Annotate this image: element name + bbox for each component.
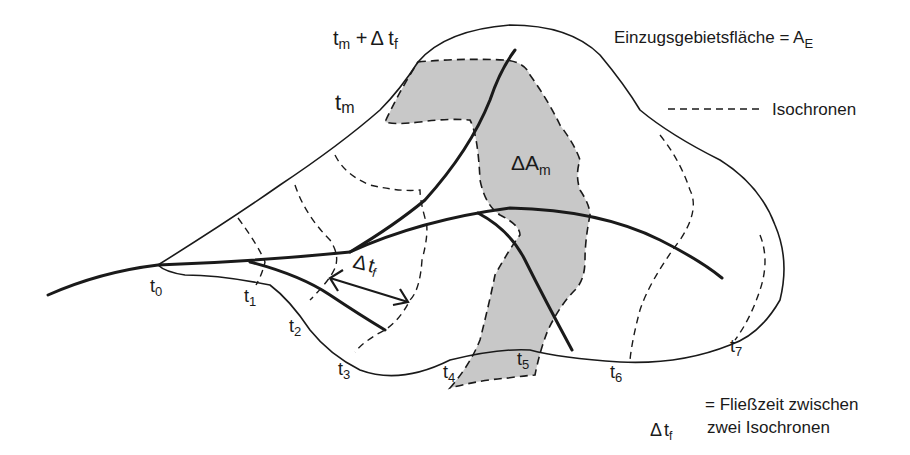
tributary-lower bbox=[250, 262, 385, 330]
isochrone-t7 bbox=[735, 235, 765, 340]
label-t1: t1 bbox=[244, 286, 256, 309]
delta-tf-arrow bbox=[330, 278, 408, 302]
label-t0: t0 bbox=[150, 276, 162, 299]
isochrone-t6 bbox=[630, 135, 693, 360]
definition-line-1: = Fließzeit zwischen bbox=[705, 395, 859, 414]
legend-isochrones: Isochronen bbox=[772, 100, 856, 119]
label-t3: t3 bbox=[338, 359, 350, 382]
isochrone-t2 bbox=[295, 185, 337, 300]
label-tm-plus-delta-tf: tm +Δ tf bbox=[333, 27, 398, 52]
label-t6: t6 bbox=[610, 362, 622, 385]
label-delta-tf-arrow: Δtf bbox=[350, 250, 381, 281]
isochrone-t1 bbox=[238, 218, 265, 285]
label-t2: t2 bbox=[289, 316, 301, 339]
catchment-isochrone-diagram: tm +Δ tf tm ΔAm Δtf t0 t1 t2 t3 t4 t5 t6… bbox=[0, 0, 910, 455]
label-t4: t4 bbox=[443, 362, 455, 385]
legend-area: Einzugsgebietsfläche = AE bbox=[614, 28, 813, 51]
definition-delta-tf: Δtf bbox=[650, 420, 673, 443]
label-tm: tm bbox=[335, 90, 354, 116]
definition-line-2: zwei Isochronen bbox=[707, 418, 830, 437]
